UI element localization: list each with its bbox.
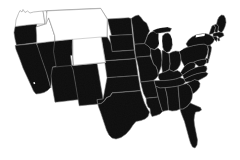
state-south-dakota[interactable] (110, 35, 135, 52)
state-indiana[interactable] (162, 51, 170, 73)
state-utah[interactable] (54, 39, 75, 69)
state-rhode-island[interactable] (218, 38, 220, 41)
state-north-dakota[interactable] (108, 18, 133, 36)
state-kansas[interactable] (105, 59, 138, 78)
us-states-map[interactable] (0, 0, 240, 160)
state-michigan-lower[interactable] (162, 33, 173, 53)
us-map-figure (0, 0, 240, 160)
state-oregon[interactable] (14, 24, 39, 45)
